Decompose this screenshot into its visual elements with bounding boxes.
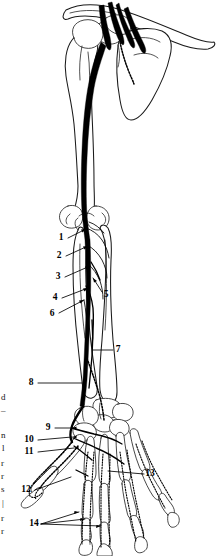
label-10: 10 [24, 434, 34, 444]
bone-radius [100, 225, 117, 403]
edge-text-fragments: d – n l r r s | r r [0, 392, 6, 536]
edge-fragment: | [2, 498, 4, 508]
label-1: 1 [59, 232, 64, 242]
skeleton-group [21, 5, 214, 556]
edge-fragment: – [0, 405, 6, 415]
label-8: 8 [29, 377, 34, 387]
label-9: 9 [46, 422, 51, 432]
label-2: 2 [57, 250, 62, 260]
leader-14c [41, 524, 101, 526]
edge-fragment: n [1, 430, 6, 440]
label-3: 3 [56, 271, 61, 281]
label-7: 7 [116, 344, 121, 354]
label-14: 14 [29, 518, 39, 528]
edge-fragment: r [1, 513, 4, 523]
edge-fragment: r [1, 526, 4, 536]
edge-fragment: r [1, 458, 4, 468]
edge-fragment: s [1, 484, 5, 494]
label-11: 11 [25, 446, 34, 456]
label-5: 5 [104, 289, 109, 299]
label-4: 4 [53, 292, 58, 302]
anatomy-figure: 1 2 3 4 5 6 7 8 9 10 11 12 13 14 d – n l… [0, 0, 216, 556]
edge-fragment: l [2, 443, 5, 453]
label-13: 13 [145, 468, 155, 478]
edge-fragment: r [1, 471, 4, 481]
leader-10 [38, 437, 72, 440]
edge-fragment: d [1, 392, 6, 402]
label-6: 6 [50, 308, 55, 318]
label-12: 12 [21, 484, 31, 494]
